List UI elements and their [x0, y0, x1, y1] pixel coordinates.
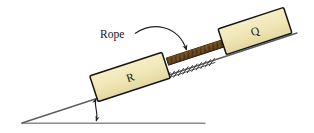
block-q: Q [218, 7, 292, 54]
rope-callout-label: Rope [100, 28, 124, 41]
rope-callout: Rope [100, 27, 187, 50]
inclined-plane-diagram-canvas: R Q Rope [0, 0, 314, 133]
rope-connector [166, 39, 225, 65]
incline-angle-marker [95, 99, 97, 121]
block-r: R [90, 52, 171, 101]
physics-diagram-figure: R Q Rope [0, 0, 314, 133]
